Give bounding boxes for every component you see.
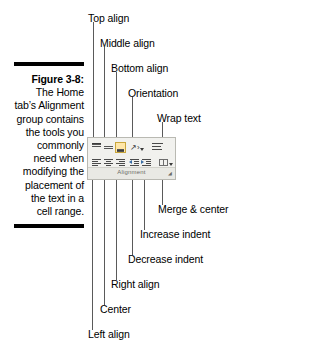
- caption-rule-bottom: [14, 224, 84, 228]
- figure-caption-block: Figure 3-8: The Home tab’s Alignment gro…: [14, 62, 84, 228]
- ribbon-group-title: Alignment: [88, 169, 175, 175]
- leader-line-increase-indent: [144, 180, 145, 230]
- callout-top-align: Top align: [88, 12, 129, 24]
- leader-line-left-align: [92, 180, 93, 330]
- ribbon-group-footer: Alignment ◢: [88, 167, 175, 179]
- figure-caption-body: The Home tab’s Alignment group contains …: [14, 86, 84, 218]
- leader-line-merge-center: [162, 180, 163, 205]
- leader-line-top-align: [93, 22, 94, 137]
- leader-line-decrease-indent: [132, 180, 133, 255]
- align-middle-icon[interactable]: [103, 142, 114, 153]
- caption-rule-top: [14, 62, 84, 66]
- callout-merge-center: Merge & center: [158, 203, 228, 215]
- leader-line-orientation: [132, 97, 133, 137]
- callout-right-align: Right align: [111, 278, 160, 290]
- ribbon-button-rows: ↗›: [88, 138, 175, 170]
- figure-page: Figure 3-8: The Home tab’s Alignment gro…: [0, 0, 333, 351]
- figure-number-label: Figure 3-8:: [14, 73, 84, 86]
- callout-orientation: Orientation: [128, 87, 178, 99]
- dialog-launcher-icon[interactable]: ◢: [167, 170, 173, 176]
- callout-wrap-text: Wrap text: [157, 112, 201, 124]
- alignment-ribbon-group: ↗›: [87, 137, 176, 180]
- callout-middle-align: Middle align: [100, 37, 155, 49]
- caption-text: Figure 3-8: The Home tab’s Alignment gro…: [14, 73, 84, 218]
- leader-line-bottom-align: [116, 72, 117, 137]
- align-bottom-icon[interactable]: [115, 142, 126, 153]
- callout-increase-indent: Increase indent: [140, 228, 210, 240]
- leader-line-center: [104, 180, 105, 305]
- leader-line-right-align: [116, 180, 117, 280]
- leader-line-middle-align: [104, 47, 105, 137]
- callout-left-align: Left align: [88, 328, 130, 340]
- align-top-icon[interactable]: [91, 142, 102, 153]
- callout-bottom-align: Bottom align: [111, 62, 168, 74]
- callout-center: Center: [100, 303, 131, 315]
- wrap-text-icon[interactable]: [150, 142, 165, 153]
- leader-line-wrap-text: [162, 122, 163, 137]
- orientation-icon[interactable]: ↗›: [129, 142, 144, 153]
- callout-decrease-indent: Decrease indent: [128, 253, 203, 265]
- ribbon-top-row: ↗›: [91, 141, 172, 154]
